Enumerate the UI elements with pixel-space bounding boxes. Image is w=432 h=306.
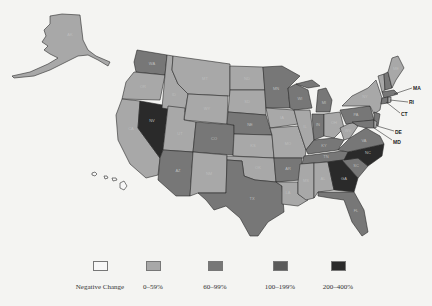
svg-text:OH: OH bbox=[331, 120, 337, 125]
svg-text:MI: MI bbox=[322, 100, 326, 105]
svg-text:VA: VA bbox=[361, 138, 366, 143]
svg-text:WY: WY bbox=[204, 106, 211, 111]
svg-text:WV: WV bbox=[345, 128, 352, 133]
legend-swatch bbox=[331, 261, 346, 271]
callout-ma: MA bbox=[413, 85, 421, 91]
svg-text:MO: MO bbox=[285, 141, 291, 146]
svg-text:UT: UT bbox=[177, 131, 183, 136]
legend-label: 200–400% bbox=[293, 283, 383, 291]
svg-text:MT: MT bbox=[202, 76, 208, 81]
state-az bbox=[158, 150, 193, 196]
us-choropleth-map: AK WA OR CA NV ID MT WY UT AZ CO NM ND S… bbox=[0, 0, 432, 250]
svg-text:TN: TN bbox=[323, 154, 328, 159]
map-legend: Negative Change 0–59% 60–99% 100–199% 20… bbox=[0, 256, 432, 306]
svg-text:KY: KY bbox=[321, 143, 327, 148]
svg-text:KS: KS bbox=[250, 143, 256, 148]
state-in bbox=[312, 114, 324, 140]
legend-swatch bbox=[208, 261, 223, 271]
svg-text:TX: TX bbox=[249, 196, 254, 201]
callout-ct: CT bbox=[401, 111, 408, 117]
state-oh bbox=[324, 112, 344, 138]
svg-text:CA: CA bbox=[128, 126, 134, 131]
svg-text:IA: IA bbox=[280, 115, 284, 120]
svg-text:NY: NY bbox=[362, 94, 368, 99]
svg-text:AZ: AZ bbox=[175, 168, 181, 173]
state-ak bbox=[12, 14, 110, 78]
svg-text:SD: SD bbox=[244, 99, 250, 104]
svg-text:ID: ID bbox=[172, 92, 176, 97]
svg-text:ND: ND bbox=[244, 76, 250, 81]
svg-text:AR: AR bbox=[285, 166, 291, 171]
legend-swatch bbox=[93, 261, 108, 271]
svg-text:AL: AL bbox=[321, 176, 327, 181]
legend-swatch bbox=[146, 261, 161, 271]
svg-text:CO: CO bbox=[211, 136, 217, 141]
svg-text:IN: IN bbox=[316, 122, 320, 127]
svg-text:NM: NM bbox=[206, 171, 212, 176]
svg-text:NV: NV bbox=[149, 118, 155, 123]
svg-text:LA: LA bbox=[286, 190, 291, 195]
legend-swatch bbox=[273, 261, 288, 271]
svg-text:OK: OK bbox=[255, 165, 261, 170]
legend-item-200-400: 200–400% bbox=[293, 256, 383, 291]
svg-text:PA: PA bbox=[353, 112, 358, 117]
svg-text:GA: GA bbox=[341, 176, 347, 181]
svg-text:AK: AK bbox=[67, 32, 73, 37]
callout-de: DE bbox=[395, 129, 403, 135]
callout-ri: RI bbox=[409, 99, 415, 105]
state-fl bbox=[318, 192, 368, 236]
svg-text:WA: WA bbox=[149, 61, 156, 66]
svg-text:NE: NE bbox=[247, 122, 253, 127]
svg-text:NC: NC bbox=[365, 150, 371, 155]
callout-md: MD bbox=[393, 139, 401, 145]
svg-text:MS: MS bbox=[303, 178, 309, 183]
svg-text:MN: MN bbox=[273, 86, 279, 91]
state-hi bbox=[92, 172, 127, 190]
svg-text:FL: FL bbox=[354, 208, 359, 213]
svg-text:WI: WI bbox=[298, 96, 303, 101]
svg-text:ME: ME bbox=[393, 66, 399, 71]
svg-text:OR: OR bbox=[140, 84, 146, 89]
svg-text:SC: SC bbox=[353, 163, 359, 168]
